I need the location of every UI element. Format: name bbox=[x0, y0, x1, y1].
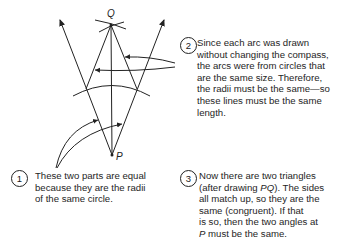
callout-arrow-2b bbox=[95, 67, 175, 71]
note-2-line: length. bbox=[197, 107, 347, 119]
note-2-line: the radii must be the same—so bbox=[197, 83, 347, 95]
note-2: Since each arc was drawn without changin… bbox=[197, 37, 347, 118]
side-left-to-q bbox=[86, 25, 111, 89]
note-3-line: same (congruent). If that bbox=[199, 205, 349, 217]
note-number-3: 3 bbox=[180, 170, 197, 187]
note-3: Now there are two triangles (after drawi… bbox=[199, 170, 349, 240]
note-3-line: Now there are two triangles bbox=[199, 170, 349, 182]
note-1-line: because they are the radii bbox=[35, 182, 165, 194]
note-2-line: the arcs were from circles that bbox=[197, 60, 347, 72]
note-2-line: without changing the compass, bbox=[197, 49, 347, 61]
point-p-label: P bbox=[116, 151, 123, 162]
note-3-line: (after drawing PQ). The sides bbox=[199, 182, 349, 194]
note-2-line: Since each arc was drawn bbox=[197, 37, 347, 49]
note-1-line: These two parts are equal bbox=[35, 170, 165, 182]
note-number-1: 1 bbox=[11, 170, 28, 187]
note-3-line: all match up, so they are the bbox=[199, 193, 349, 205]
note-3-line: P must be the same. bbox=[199, 228, 349, 240]
note-number-2: 2 bbox=[180, 37, 197, 54]
note-1-line: of the same circle. bbox=[35, 193, 165, 205]
note-2-line: are the same size. Therefore, bbox=[197, 72, 347, 84]
bisector-line-pq bbox=[111, 25, 112, 155]
right-ray bbox=[112, 20, 164, 155]
note-3-line: is so, then the two angles at bbox=[199, 216, 349, 228]
point-q-label: Q bbox=[107, 8, 115, 19]
left-ray bbox=[60, 20, 112, 155]
note-1: These two parts are equal because they a… bbox=[35, 170, 165, 205]
callout-arrow-2a bbox=[125, 57, 175, 63]
note-2-line: these lines must be the same bbox=[197, 95, 347, 107]
